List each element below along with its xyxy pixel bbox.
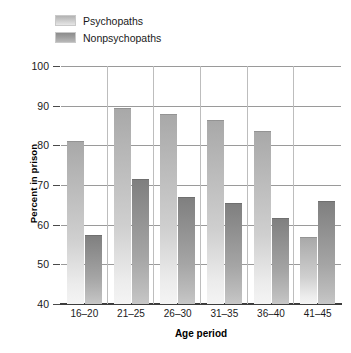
y-axis-tick-mark [53,225,60,226]
bar [85,235,102,304]
bar-group [108,66,155,304]
y-axis-tick-label: 40 [37,298,49,310]
y-axis-tick-mark [53,185,60,186]
x-axis-tick-label: 16–20 [61,308,108,319]
y-axis-tick-mark [53,66,60,67]
bar-top-edge [318,201,335,202]
y-axis-tick-label: 90 [37,100,49,112]
bar [178,197,195,304]
bar-group [154,66,201,304]
bar-top-edge [254,131,271,132]
bar [272,218,289,304]
legend-label-psychopaths: Psychopaths [83,15,143,27]
bar-top-edge [114,108,131,109]
y-axis-tick-label: 100 [31,60,49,72]
bar [114,108,131,304]
bar-top-edge [67,141,84,142]
y-axis-tick-mark [53,304,60,305]
legend-item-psychopaths: Psychopaths [55,13,161,28]
bar [300,237,317,304]
bar [207,120,224,304]
bar [225,203,242,304]
bar-group [294,66,341,304]
y-axis-tick-mark [53,106,60,107]
bar [254,131,271,304]
legend-item-nonpsychopaths: Nonpsychopaths [55,30,161,45]
x-axis-tick-label: 36–40 [248,308,295,319]
bar-top-edge [300,237,317,238]
x-axis-tick-label: 26–30 [154,308,201,319]
bar-group [248,66,295,304]
x-axis-title: Age period [61,328,341,339]
y-axis-tick-mark [53,264,60,265]
bar-top-edge [160,114,177,115]
legend-label-nonpsychopaths: Nonpsychopaths [83,32,161,44]
bar-groups [61,66,341,304]
bar-group [201,66,248,304]
x-axis-tick-label: 31–35 [201,308,248,319]
bar [67,141,84,304]
bar-top-edge [132,179,149,180]
bar-top-edge [207,120,224,121]
bar-top-edge [272,218,289,219]
x-axis-tick-labels: 16–2021–2526–3031–3536–4041–45 [61,308,341,319]
y-axis-tick-label: 50 [37,258,49,270]
legend-swatch-psychopaths [55,15,76,26]
chart-legend: Psychopaths Nonpsychopaths [55,13,161,47]
bar [318,201,335,304]
bar-group [61,66,108,304]
x-axis-tick-label: 41–45 [294,308,341,319]
bar [132,179,149,304]
x-axis-tick-label: 21–25 [108,308,155,319]
bar-top-edge [85,235,102,236]
plot-area: 405060708090100 [61,66,341,304]
y-axis-tick-mark [53,145,60,146]
y-axis-tick-label: 70 [37,179,49,191]
bar-top-edge [178,197,195,198]
y-axis-tick-label: 80 [37,139,49,151]
bar [160,114,177,304]
y-axis-tick-label: 60 [37,219,49,231]
legend-swatch-nonpsychopaths [55,32,76,43]
bar-top-edge [225,203,242,204]
bar-chart: Psychopaths Nonpsychopaths Percent in pr… [0,0,351,353]
